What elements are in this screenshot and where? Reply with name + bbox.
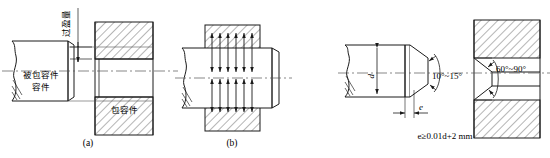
shaft-angle-label: 10°~15°	[432, 71, 462, 81]
interference-fit-figure: 过盈量 被包容件 容件 包容件 (a)	[0, 0, 550, 158]
panel-c: d e 10°~15°	[338, 20, 550, 141]
panel-b: (b)	[175, 25, 292, 149]
chamfer-length-label: e	[419, 102, 423, 112]
bore-angle-label: 60°~90°	[496, 64, 526, 74]
interference-label: 过盈量	[61, 10, 71, 37]
shaft-diameter-label: d	[366, 74, 376, 79]
panel-b-caption: (b)	[226, 138, 237, 149]
outer-part-label: 包容件	[111, 105, 138, 115]
figure-canvas: 过盈量 被包容件 容件 包容件 (a)	[0, 0, 550, 158]
panel-a-outer-part	[95, 22, 153, 135]
panel-c-housing	[474, 20, 540, 138]
panel-a-interference-dimension	[70, 8, 92, 62]
inner-part-label: 被包容件	[23, 70, 59, 80]
panel-c-shaft	[345, 45, 428, 97]
panel-a: 过盈量 被包容件 容件 包容件 (a)	[2, 8, 178, 149]
chamfer-formula: e≥0.01d+2 mm	[417, 131, 472, 141]
panel-a-caption: (a)	[83, 138, 94, 149]
inner-part-label-2: 容件	[32, 82, 50, 92]
